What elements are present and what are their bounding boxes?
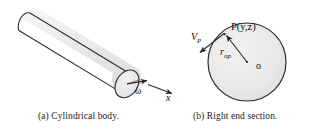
caption-panel-a: (a) Cylindrical body.	[38, 112, 119, 122]
figure-container: VP P(y,z) rop o ω x (a) Cylindrical body…	[0, 0, 310, 136]
velocity-label: VP	[191, 32, 201, 45]
velocity-subscript: P	[197, 37, 201, 45]
origin-label: o	[256, 61, 261, 71]
radius-label: rop	[220, 47, 231, 60]
x-axis-label: x	[166, 93, 170, 103]
caption-panel-b: (b) Right end section.	[193, 112, 278, 122]
point-p-label: P(y,z)	[231, 22, 256, 33]
radius-subscript: op	[224, 52, 231, 60]
point-o-marker	[246, 61, 248, 63]
point-p-marker	[224, 33, 226, 35]
cylinder-top-edge	[30, 13, 133, 76]
cylinder-body-graphic	[18, 8, 144, 102]
end-section-graphic	[200, 23, 286, 101]
omega-label: ω	[135, 87, 141, 97]
